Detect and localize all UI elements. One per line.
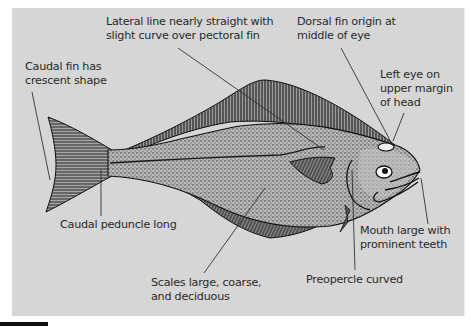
label-lateral-line: Lateral line nearly straight with slight… xyxy=(106,15,273,43)
label-left-eye: Left eye on upper margin of head xyxy=(380,68,453,110)
leader-mouth xyxy=(421,178,428,224)
label-dorsal-fin-origin: Dorsal fin origin at middle of eye xyxy=(297,15,396,43)
label-caudal-fin: Caudal fin has crescent shape xyxy=(25,60,107,88)
leader-left-eye xyxy=(393,113,404,141)
label-caudal-peduncle: Caudal peduncle long xyxy=(60,218,177,232)
caudal-fin xyxy=(46,117,112,212)
label-preopercle: Preopercle curved xyxy=(306,273,403,287)
label-mouth: Mouth large with prominent teeth xyxy=(360,224,450,252)
bottom-black-bar xyxy=(0,322,48,326)
leader-caudal-fin xyxy=(32,92,50,180)
label-scales: Scales large, coarse, and deciduous xyxy=(151,276,261,304)
